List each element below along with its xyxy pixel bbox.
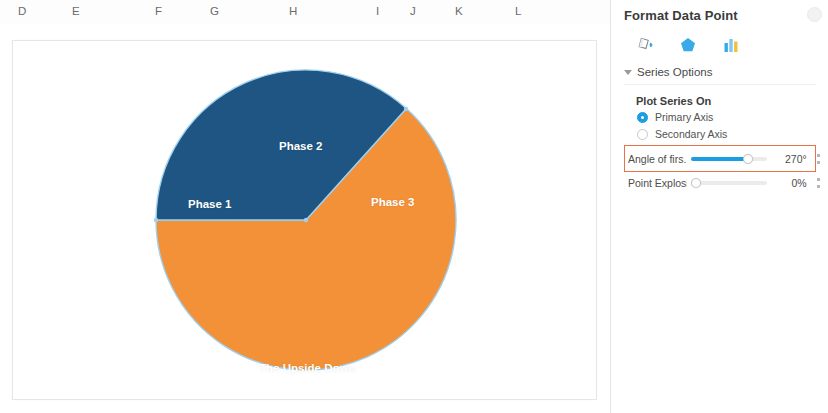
slider-thumb[interactable] bbox=[691, 178, 701, 188]
slider-track-fill bbox=[691, 157, 748, 161]
slider-thumb[interactable] bbox=[743, 154, 753, 164]
column-header-bar: D E F G H I J K L bbox=[0, 0, 610, 25]
column-header-l[interactable]: L bbox=[515, 5, 522, 17]
angle-of-first-slice-value[interactable]: 270° bbox=[775, 153, 807, 165]
column-header-f[interactable]: F bbox=[155, 5, 162, 17]
stepper-down-icon[interactable] bbox=[817, 161, 820, 164]
column-header-e[interactable]: E bbox=[72, 5, 80, 17]
pie-vertex-upper-right bbox=[404, 107, 408, 111]
series-options-header[interactable]: Series Options bbox=[624, 66, 712, 78]
chevron-down-icon[interactable] bbox=[624, 70, 632, 75]
pie-vertex-left bbox=[154, 218, 158, 222]
pie-label-phase-3: Phase 3 bbox=[371, 196, 414, 208]
angle-of-first-slice-stepper[interactable] bbox=[813, 154, 824, 164]
column-header-d[interactable]: D bbox=[18, 5, 27, 17]
pie-label-phase-1: Phase 1 bbox=[188, 198, 231, 210]
point-explosion-stepper[interactable] bbox=[813, 178, 824, 188]
point-explosion-row[interactable]: Point Explosi... 0% bbox=[628, 172, 824, 194]
point-explosion-value[interactable]: 0% bbox=[775, 177, 807, 189]
series-options-icon[interactable] bbox=[716, 30, 746, 60]
point-explosion-label: Point Explosi... bbox=[628, 177, 687, 189]
stepper-up-icon[interactable] bbox=[817, 154, 820, 157]
effects-icon[interactable] bbox=[673, 30, 703, 60]
plot-series-on-label: Plot Series On bbox=[636, 95, 711, 107]
slider-track-line bbox=[691, 181, 767, 185]
close-icon[interactable] bbox=[807, 7, 822, 22]
pie-label-the-upside-down: The Upside Down bbox=[259, 362, 355, 374]
radio-secondary-axis-label: Secondary Axis bbox=[655, 128, 727, 140]
radio-primary-axis-indicator[interactable] bbox=[637, 112, 648, 123]
radio-secondary-axis-indicator[interactable] bbox=[637, 129, 648, 140]
format-data-point-panel: Format Data Point bbox=[610, 0, 828, 413]
pie-chart-svg[interactable] bbox=[13, 41, 596, 399]
panel-title: Format Data Point bbox=[624, 8, 738, 23]
spreadsheet-area: D E F G H I J K L Phase 1 Phase 2 Phase … bbox=[0, 0, 610, 413]
column-header-h[interactable]: H bbox=[289, 5, 298, 17]
section-divider bbox=[624, 84, 816, 85]
stepper-down-icon[interactable] bbox=[817, 185, 820, 188]
point-explosion-slider[interactable] bbox=[691, 177, 767, 189]
panel-icon-bar bbox=[611, 30, 828, 62]
chart-object[interactable]: Phase 1 Phase 2 Phase 3 The Upside Down bbox=[12, 40, 597, 400]
column-header-j[interactable]: J bbox=[410, 5, 416, 17]
series-options-label: Series Options bbox=[637, 66, 712, 78]
column-header-g[interactable]: G bbox=[210, 5, 219, 17]
pie-center-vertex bbox=[304, 218, 308, 222]
fill-and-line-icon[interactable] bbox=[629, 30, 659, 60]
angle-of-first-slice-label: Angle of firs... bbox=[628, 153, 687, 165]
angle-of-first-slice-slider[interactable] bbox=[691, 153, 767, 165]
radio-secondary-axis[interactable]: Secondary Axis bbox=[637, 128, 727, 140]
radio-primary-axis-label: Primary Axis bbox=[655, 111, 713, 123]
pie-label-phase-2: Phase 2 bbox=[279, 140, 322, 152]
column-header-k[interactable]: K bbox=[455, 5, 463, 17]
stepper-up-icon[interactable] bbox=[817, 178, 820, 181]
pie-chart[interactable]: Phase 1 Phase 2 Phase 3 The Upside Down bbox=[13, 41, 596, 399]
angle-of-first-slice-row[interactable]: Angle of firs... 270° bbox=[628, 148, 824, 170]
column-header-i[interactable]: I bbox=[376, 5, 379, 17]
radio-primary-axis[interactable]: Primary Axis bbox=[637, 111, 713, 123]
